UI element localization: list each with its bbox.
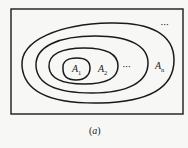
nested-sets-diagram: A1 A2 ••• An ••• (a)	[0, 0, 188, 148]
label-an: An	[154, 60, 165, 73]
ellipsis-inner: •••	[123, 64, 131, 69]
label-a2: A2	[97, 63, 107, 76]
ellipsis-outer: •••	[161, 22, 169, 27]
label-a1: A1	[71, 63, 81, 76]
figure-caption: (a)	[89, 125, 101, 137]
